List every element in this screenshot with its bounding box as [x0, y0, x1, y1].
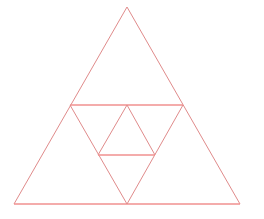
- canvas-background: [0, 0, 264, 219]
- triangle-diagram-svg: [0, 0, 264, 219]
- figure-canvas: [0, 0, 264, 219]
